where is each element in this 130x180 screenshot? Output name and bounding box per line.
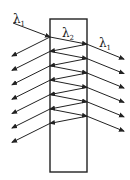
internal-ray xyxy=(50,66,87,73)
internal-ray xyxy=(50,102,87,109)
internal-ray xyxy=(50,44,87,51)
internal-ray xyxy=(50,51,87,58)
label-incident-wavelength: λ1 xyxy=(13,13,25,28)
label-slab-wavelength: λ2 xyxy=(62,27,74,42)
label-transmitted-wavelength: λ1 xyxy=(99,37,111,52)
internal-ray xyxy=(50,73,87,80)
internal-ray xyxy=(50,95,87,102)
reflected-ray xyxy=(12,109,50,128)
transmitted-ray xyxy=(87,102,124,117)
reflected-ray xyxy=(12,95,50,114)
internal-ray xyxy=(50,80,87,87)
reflected-ray xyxy=(12,66,50,85)
internal-ray xyxy=(50,87,87,94)
transmitted-ray xyxy=(87,87,124,102)
reflected-ray xyxy=(12,51,50,70)
transmitted-ray xyxy=(87,73,124,88)
internal-ray xyxy=(50,59,87,66)
internal-ray xyxy=(50,116,87,123)
transmitted-ray xyxy=(87,116,124,131)
transmitted-ray xyxy=(87,59,124,74)
reflected-ray xyxy=(12,80,50,99)
reflected-ray xyxy=(12,123,50,142)
internal-ray xyxy=(50,109,87,116)
reflected-ray xyxy=(12,37,50,56)
